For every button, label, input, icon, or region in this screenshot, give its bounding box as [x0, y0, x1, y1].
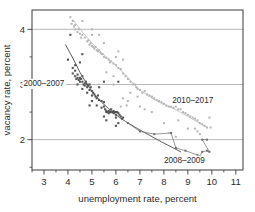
data-point	[134, 83, 136, 85]
data-point	[206, 127, 208, 129]
data-point	[172, 107, 174, 109]
data-point	[125, 75, 127, 77]
data-point	[105, 57, 107, 59]
data-point	[115, 125, 117, 127]
data-point	[95, 46, 97, 48]
data-point	[122, 59, 124, 61]
y-axis-title: vacancy rate, percent	[1, 44, 12, 135]
data-point	[90, 86, 92, 88]
data-point	[168, 106, 170, 108]
data-point	[105, 119, 107, 121]
data-point	[210, 127, 212, 129]
data-point	[91, 94, 93, 96]
data-point	[77, 83, 79, 85]
data-point	[146, 93, 148, 95]
data-point	[163, 122, 165, 124]
beveridge-curve-chart: 34567891011234unemployment rate, percent…	[0, 0, 255, 212]
data-point	[206, 150, 208, 152]
data-point	[110, 108, 112, 110]
data-point	[89, 104, 91, 106]
data-point	[153, 133, 155, 135]
data-point	[103, 42, 105, 44]
data-point	[137, 88, 139, 90]
data-point	[102, 53, 104, 55]
plot-frame	[32, 10, 243, 170]
data-point	[206, 139, 208, 141]
data-point	[189, 115, 191, 117]
data-point	[163, 103, 165, 105]
x-tick-label: 7	[137, 176, 142, 187]
data-point	[204, 125, 206, 127]
data-point	[72, 20, 74, 22]
data-point	[84, 37, 86, 39]
data-point	[177, 108, 179, 110]
data-point	[148, 95, 150, 97]
data-point	[80, 78, 82, 80]
data-point	[141, 92, 143, 94]
data-point	[180, 108, 182, 110]
series-3	[69, 16, 211, 138]
data-point	[90, 42, 92, 44]
data-point	[113, 63, 115, 65]
data-point	[175, 106, 177, 108]
data-point	[87, 39, 89, 41]
data-point	[120, 68, 122, 70]
data-point	[139, 89, 141, 91]
series-annotation-2: 2010–2017	[172, 96, 213, 105]
data-point	[201, 123, 203, 125]
data-point	[196, 119, 198, 121]
data-point	[84, 85, 86, 87]
data-point	[115, 114, 117, 116]
data-point	[77, 77, 79, 79]
data-point	[129, 92, 131, 94]
x-tick-label: 11	[231, 176, 241, 187]
data-point	[122, 117, 124, 119]
data-point	[117, 122, 119, 124]
data-point	[117, 67, 119, 69]
data-point	[67, 59, 69, 61]
data-point	[177, 119, 179, 121]
data-point	[151, 111, 153, 113]
data-point	[98, 99, 100, 101]
data-point	[98, 34, 100, 36]
data-point	[115, 64, 117, 66]
data-point	[103, 56, 105, 58]
data-point	[86, 92, 88, 94]
data-point	[117, 50, 119, 52]
x-tick-label: 9	[185, 176, 190, 187]
data-point	[199, 122, 201, 124]
data-point	[137, 96, 139, 98]
data-point	[144, 90, 146, 92]
data-point	[158, 100, 160, 102]
y-tick-label: 2	[20, 134, 25, 145]
data-point	[160, 101, 162, 103]
data-point	[100, 107, 102, 109]
data-point	[144, 108, 146, 110]
data-point	[122, 72, 124, 74]
data-point	[156, 99, 158, 101]
data-point	[81, 53, 83, 55]
data-point	[74, 64, 76, 66]
data-point	[91, 34, 93, 36]
data-point	[194, 118, 196, 120]
data-point	[184, 150, 186, 152]
x-axis-title: unemployment rate, percent	[78, 193, 197, 204]
data-point	[129, 81, 131, 83]
data-point	[105, 71, 107, 73]
data-point	[182, 111, 184, 113]
data-point	[74, 75, 76, 77]
data-point	[113, 75, 115, 77]
data-point	[127, 100, 129, 102]
data-point	[175, 147, 177, 149]
data-point	[79, 61, 81, 63]
data-point	[89, 89, 91, 91]
data-point	[81, 20, 83, 22]
data-point	[115, 56, 117, 58]
chart-svg: 34567891011234unemployment rate, percent…	[0, 0, 255, 212]
data-point	[113, 83, 115, 85]
data-point	[98, 49, 100, 51]
data-point	[194, 128, 196, 130]
data-point	[170, 132, 172, 134]
data-point	[85, 81, 87, 83]
data-point	[81, 88, 83, 90]
